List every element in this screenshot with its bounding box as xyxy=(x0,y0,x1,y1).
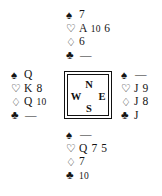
north-diamonds-row: ♢ 6 xyxy=(66,35,111,49)
compass-label-east: E xyxy=(96,91,108,102)
west-hearts-cards: K 8 xyxy=(22,82,43,96)
south-hearts-row: ♡ Q 7 5 xyxy=(66,142,108,156)
south-diamonds-row: ♢ 7 xyxy=(66,155,108,169)
spade-icon: ♠ xyxy=(66,129,77,143)
diamond-icon: ♢ xyxy=(121,96,132,110)
east-clubs-row: ♣ J xyxy=(121,109,149,123)
north-hearts-row: ♡ A 10 6 xyxy=(66,22,111,36)
club-icon: ♣ xyxy=(66,49,77,63)
heart-icon: ♡ xyxy=(66,22,77,36)
compass-label-north: N xyxy=(83,79,95,90)
north-clubs-row: ♣ — xyxy=(66,49,111,63)
diamond-icon: ♢ xyxy=(66,36,77,50)
hand-west: ♠ Q ♡ K 8 ♢ Q 10 ♣ — xyxy=(11,68,47,122)
west-clubs-row: ♣ — xyxy=(11,109,47,123)
south-diamonds-cards: 7 xyxy=(77,155,85,169)
bridge-hand-diagram: ♠ 7 ♡ A 10 6 ♢ 6 ♣ — ♠ Q ♡ K 8 ♢ Q 10 xyxy=(0,0,162,196)
club-icon: ♣ xyxy=(11,109,22,123)
south-clubs-cards: 10 xyxy=(77,169,89,184)
south-spades-cards: — xyxy=(77,128,92,142)
west-clubs-cards: — xyxy=(22,109,37,123)
east-hearts-cards: J 9 xyxy=(132,82,149,96)
east-hearts-row: ♡ J 9 xyxy=(121,82,149,96)
spade-icon: ♠ xyxy=(11,69,22,83)
compass-box: N W E S xyxy=(64,71,112,119)
west-spades-cards: Q xyxy=(22,68,33,82)
north-spades-cards: 7 xyxy=(77,8,85,22)
club-icon: ♣ xyxy=(121,109,132,123)
diamond-icon: ♢ xyxy=(11,96,22,110)
north-spades-row: ♠ 7 xyxy=(66,8,111,22)
hand-north: ♠ 7 ♡ A 10 6 ♢ 6 ♣ — xyxy=(66,8,111,62)
diamond-icon: ♢ xyxy=(66,156,77,170)
south-spades-row: ♠ — xyxy=(66,128,108,142)
west-hearts-row: ♡ K 8 xyxy=(11,82,47,96)
spade-icon: ♠ xyxy=(66,9,77,23)
east-clubs-cards: J xyxy=(132,109,139,123)
club-icon: ♣ xyxy=(66,169,77,183)
south-hearts-cards: Q 7 5 xyxy=(77,142,108,156)
east-diamonds-cards: J 8 xyxy=(132,95,149,109)
west-diamonds-row: ♢ Q 10 xyxy=(11,95,47,109)
east-diamonds-row: ♢ J 8 xyxy=(121,95,149,109)
compass-label-west: W xyxy=(70,91,82,102)
east-spades-cards: — xyxy=(132,68,147,82)
east-spades-row: ♠ — xyxy=(121,68,149,82)
heart-icon: ♡ xyxy=(11,82,22,96)
heart-icon: ♡ xyxy=(66,142,77,156)
west-spades-row: ♠ Q xyxy=(11,68,47,82)
north-clubs-cards: — xyxy=(77,49,92,63)
north-hearts-cards: A 10 6 xyxy=(77,22,111,37)
hand-east: ♠ — ♡ J 9 ♢ J 8 ♣ J xyxy=(121,68,149,122)
heart-icon: ♡ xyxy=(121,82,132,96)
north-diamonds-cards: 6 xyxy=(77,35,85,49)
south-clubs-row: ♣ 10 xyxy=(66,169,108,183)
compass-label-south: S xyxy=(83,103,95,114)
hand-south: ♠ — ♡ Q 7 5 ♢ 7 ♣ 10 xyxy=(66,128,108,182)
spade-icon: ♠ xyxy=(121,69,132,83)
west-diamonds-cards: Q 10 xyxy=(22,95,47,110)
